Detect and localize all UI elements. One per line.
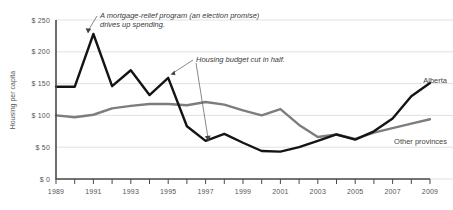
- x-tick-label: 1991: [85, 188, 101, 195]
- annotation-budget-cut-leader-lower: [196, 63, 208, 138]
- x-axis-tick-labels: 1989199119931995199719992001200320052007…: [48, 188, 438, 195]
- y-tick-label: $ 150: [31, 80, 50, 87]
- line-other-provinces: [56, 102, 430, 139]
- x-tick-label: 2003: [310, 188, 326, 195]
- annotation-mortgage-relief: A mortgage-relief program (an election p…: [86, 11, 260, 34]
- series-label-alberta: Alberta: [423, 76, 448, 85]
- annotation-budget-cut-line1: Housing budget cut in half.: [196, 55, 285, 64]
- y-axis-title: Housing per capita: [9, 71, 17, 129]
- x-tick-label: 2005: [347, 188, 363, 195]
- x-tick-label: 1997: [197, 188, 213, 195]
- annotation-budget-cut-arrow-icon-upper: [171, 71, 176, 76]
- y-tick-label: $ 200: [31, 48, 50, 55]
- y-tick-label: $ 250: [31, 17, 50, 24]
- gridlines: [56, 20, 453, 179]
- tick-marks: [56, 179, 430, 184]
- x-tick-label: 1989: [48, 188, 64, 195]
- annotation-budget-cut-leader-upper: [173, 60, 193, 73]
- annotation-budget-cut: Housing budget cut in half.: [171, 55, 285, 142]
- y-tick-label: $ 50: [36, 144, 50, 151]
- axis-lines: [56, 20, 430, 179]
- x-tick-label: 1995: [160, 188, 176, 195]
- chart-container: $ 0$ 50$ 100$ 150$ 200$ 250 198919911993…: [0, 0, 453, 210]
- series-label-other-provinces: Other provinces: [394, 137, 447, 146]
- x-tick-label: 2009: [422, 188, 438, 195]
- annotation-mortgage-relief-arrow-icon: [86, 28, 92, 33]
- x-tick-label: 1999: [235, 188, 251, 195]
- annotation-mortgage-relief-line2: drives up spending.: [100, 20, 165, 29]
- x-tick-label: 2001: [272, 188, 288, 195]
- y-axis-tick-labels: $ 0$ 50$ 100$ 150$ 200$ 250: [31, 17, 50, 183]
- axes: [56, 20, 430, 184]
- y-tick-label: $ 100: [31, 112, 50, 119]
- x-tick-label: 1993: [123, 188, 139, 195]
- x-tick-label: 2007: [384, 188, 400, 195]
- housing-per-capita-chart: $ 0$ 50$ 100$ 150$ 200$ 250 198919911993…: [0, 0, 453, 210]
- y-tick-label: $ 0: [40, 176, 50, 183]
- annotation-mortgage-relief-line1: A mortgage-relief program (an election p…: [99, 11, 260, 20]
